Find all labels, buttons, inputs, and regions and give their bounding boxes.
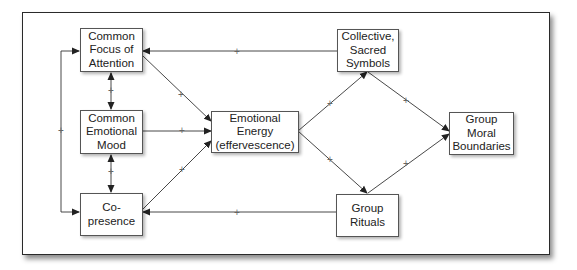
sign-symbols-focus: + bbox=[234, 46, 240, 57]
sign-mood-copresence: + bbox=[108, 166, 114, 177]
sign-left-loop: + bbox=[58, 125, 64, 136]
sign-energy-symbols: + bbox=[327, 98, 333, 109]
node-common-focus-of-attention: Common Focus of Attention bbox=[80, 28, 143, 72]
sign-mood-energy: + bbox=[179, 125, 185, 136]
sign-copresence-energy: + bbox=[179, 164, 185, 175]
sign-energy-rituals: + bbox=[327, 154, 333, 165]
node-co-presence: Co- presence bbox=[80, 193, 143, 236]
sign-rituals-boundaries: + bbox=[403, 158, 409, 169]
node-group-moral-boundaries: Group Moral Boundaries bbox=[449, 112, 514, 155]
node-emotional-energy: Emotional Energy (effervescence) bbox=[211, 111, 299, 153]
node-group-rituals: Group Rituals bbox=[336, 194, 399, 237]
edge-focus-to-energy bbox=[143, 56, 211, 121]
edge-copresence-to-energy bbox=[143, 141, 211, 209]
node-collective-sacred-symbols: Collective, Sacred Symbols bbox=[337, 29, 399, 72]
node-common-emotional-mood: Common Emotional Mood bbox=[80, 110, 143, 154]
sign-focus-energy: + bbox=[178, 89, 184, 100]
sign-focus-mood: + bbox=[108, 85, 114, 96]
sign-symbols-boundaries: + bbox=[403, 95, 409, 106]
sign-rituals-copresence: + bbox=[234, 207, 240, 218]
